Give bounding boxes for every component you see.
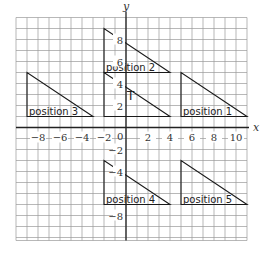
y-axis-label: y: [122, 0, 130, 13]
origin-label: 0: [117, 131, 123, 142]
y-tick-label: −2: [108, 145, 123, 156]
triangle-label: position 1: [183, 106, 232, 117]
y-tick-label: 8: [117, 35, 123, 46]
triangle-label: position 4: [106, 194, 155, 205]
coordinate-grid-diagram: Tposition 1position 2position 3position …: [0, 0, 269, 255]
x-tick-label: 4: [167, 132, 173, 143]
x-tick-label: 8: [211, 132, 217, 143]
triangle-label: position 5: [183, 194, 232, 205]
x-tick-label: 10: [230, 132, 243, 143]
x-tick-label: −4: [75, 132, 90, 143]
x-tick-label: −6: [53, 132, 68, 143]
y-tick-label: −4: [108, 167, 123, 178]
y-tick-label: 2: [117, 101, 123, 112]
x-tick-label: 6: [189, 132, 195, 143]
y-tick-label: 6: [117, 57, 123, 68]
x-axis-label: x: [253, 121, 260, 134]
grid: [16, 18, 247, 241]
y-tick-label: 4: [117, 79, 123, 90]
x-tick-label: −2: [97, 132, 112, 143]
triangle-label: T: [126, 89, 135, 103]
y-tick-label: −8: [108, 211, 123, 222]
triangle-label: position 3: [29, 106, 78, 117]
x-tick-label: −8: [31, 132, 46, 143]
x-tick-label: 2: [145, 132, 151, 143]
